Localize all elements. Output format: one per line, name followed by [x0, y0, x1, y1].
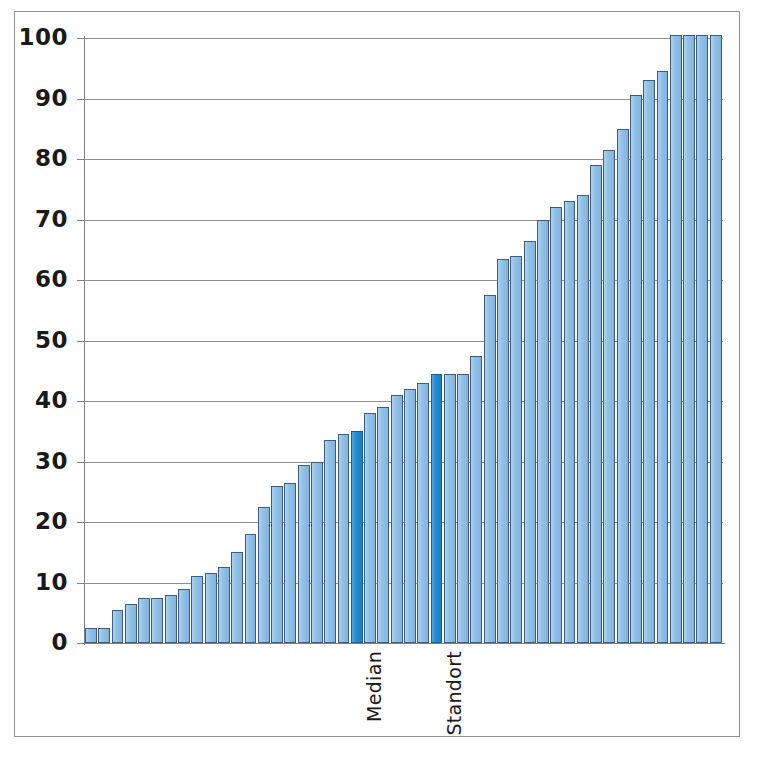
- y-tick-label-60: 60: [0, 268, 68, 291]
- bar: [603, 150, 615, 643]
- y-tick-30: [77, 462, 85, 463]
- median-axis-label: Median: [363, 651, 385, 722]
- bar: [311, 462, 323, 644]
- bar: [377, 407, 389, 643]
- bar: [444, 374, 456, 643]
- y-tick-90: [77, 99, 85, 100]
- bar: [258, 507, 270, 643]
- bar: [231, 552, 243, 643]
- bar: [510, 256, 522, 643]
- bar: [324, 440, 336, 643]
- y-tick-0: [77, 643, 85, 644]
- bar: [271, 486, 283, 643]
- y-tick-40: [77, 401, 85, 402]
- bar: [284, 483, 296, 643]
- bar: [298, 465, 310, 643]
- bar: [218, 567, 230, 643]
- bar-highlight-median: [351, 431, 363, 643]
- bar: [125, 604, 137, 643]
- x-axis-line: [78, 643, 725, 644]
- bar: [630, 95, 642, 643]
- bar: [98, 628, 110, 643]
- y-tick-60: [77, 280, 85, 281]
- y-tick-label-10: 10: [0, 571, 68, 594]
- bar: [683, 35, 695, 643]
- y-tick-label-90: 90: [0, 87, 68, 110]
- bar: [404, 389, 416, 643]
- standort-axis-label: Standort: [443, 651, 465, 736]
- bar: [457, 374, 469, 643]
- y-tick-50: [77, 341, 85, 342]
- bar: [165, 595, 177, 643]
- bar-highlight-standort: [431, 374, 443, 643]
- bar: [178, 589, 190, 643]
- bar: [205, 573, 217, 643]
- y-tick-label-30: 30: [0, 450, 68, 473]
- bar: [617, 129, 629, 643]
- plot-area: [85, 38, 723, 643]
- bar: [417, 383, 429, 643]
- y-tick-label-20: 20: [0, 510, 68, 533]
- bar: [497, 259, 509, 643]
- bar: [670, 35, 682, 643]
- bar: [85, 628, 97, 643]
- bar: [470, 356, 482, 643]
- y-tick-label-100: 100: [0, 26, 68, 49]
- bar: [710, 35, 722, 643]
- bar: [564, 201, 576, 643]
- y-tick-label-80: 80: [0, 147, 68, 170]
- bar: [364, 413, 376, 643]
- bar: [550, 207, 562, 643]
- bar: [577, 195, 589, 643]
- chart-page: 0102030405060708090100 MedianStandort: [0, 0, 765, 763]
- bar: [524, 241, 536, 643]
- bar: [657, 71, 669, 643]
- bar: [245, 534, 257, 643]
- bar: [643, 80, 655, 643]
- bar: [537, 220, 549, 644]
- bar: [484, 295, 496, 643]
- y-tick-label-40: 40: [0, 389, 68, 412]
- bar: [391, 395, 403, 643]
- bar: [696, 35, 708, 643]
- bar: [112, 610, 124, 643]
- y-tick-10: [77, 583, 85, 584]
- y-tick-label-50: 50: [0, 329, 68, 352]
- y-tick-100: [77, 38, 85, 39]
- y-tick-label-0: 0: [0, 631, 68, 654]
- bar: [590, 165, 602, 643]
- y-tick-20: [77, 522, 85, 523]
- bar: [191, 576, 203, 643]
- y-tick-70: [77, 220, 85, 221]
- bar: [151, 598, 163, 643]
- bars-group: [85, 38, 723, 643]
- bar: [138, 598, 150, 643]
- y-tick-80: [77, 159, 85, 160]
- bar: [338, 434, 350, 643]
- y-tick-label-70: 70: [0, 208, 68, 231]
